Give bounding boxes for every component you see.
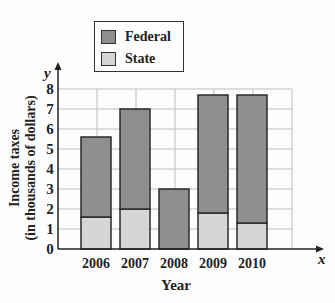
y-tick-label: 7 bbox=[46, 101, 54, 117]
y-tick-label: 1 bbox=[46, 221, 54, 237]
legend-label-state: State bbox=[125, 51, 155, 67]
y-tick-label: 0 bbox=[46, 241, 54, 257]
bar-federal-2007 bbox=[120, 109, 150, 209]
x-tick-label: 2008 bbox=[160, 256, 188, 271]
legend: Federal State bbox=[94, 21, 184, 72]
bar-federal-2008 bbox=[159, 189, 189, 249]
x-tick-label: 2009 bbox=[199, 256, 227, 271]
y-axis-symbol: y bbox=[42, 65, 51, 81]
y-tick-label: 2 bbox=[46, 201, 54, 217]
y-axis-label-line2: (in thousands of dollars) bbox=[23, 95, 39, 240]
x-tick-label: 2007 bbox=[121, 256, 149, 271]
federal-swatch-icon bbox=[101, 30, 116, 44]
bar-federal-2006 bbox=[81, 137, 111, 217]
bar-state-2010 bbox=[237, 223, 267, 249]
y-tick-label: 6 bbox=[46, 121, 54, 137]
legend-item-federal: Federal bbox=[101, 29, 171, 45]
y-tick-label: 3 bbox=[46, 181, 54, 197]
y-axis-label-line1: Income taxes bbox=[7, 128, 22, 207]
x-tick-labels: 20062007200820092010 bbox=[82, 256, 266, 271]
x-tick-label: 2010 bbox=[238, 256, 266, 271]
y-tick-labels: 012345678 bbox=[46, 81, 54, 257]
bars bbox=[81, 95, 267, 249]
bar-state-2006 bbox=[81, 217, 111, 249]
y-tick-label: 8 bbox=[46, 81, 54, 97]
bar-federal-2009 bbox=[198, 95, 228, 213]
bar-federal-2010 bbox=[237, 95, 267, 223]
bar-state-2009 bbox=[198, 213, 228, 249]
x-axis-symbol: x bbox=[317, 251, 326, 267]
legend-label-federal: Federal bbox=[125, 29, 171, 45]
legend-item-state: State bbox=[101, 51, 155, 67]
bar-state-2007 bbox=[120, 209, 150, 249]
y-tick-label: 4 bbox=[46, 161, 54, 177]
y-tick-label: 5 bbox=[46, 141, 54, 157]
x-tick-label: 2006 bbox=[82, 256, 110, 271]
x-axis-label: Year bbox=[161, 277, 191, 293]
state-swatch-icon bbox=[101, 52, 116, 66]
